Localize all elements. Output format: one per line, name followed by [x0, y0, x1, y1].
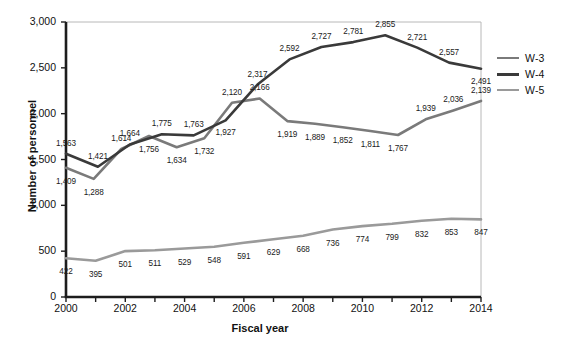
legend-swatch-w-5 — [497, 89, 519, 91]
data-point-label: 853 — [445, 227, 458, 236]
x-tick-label: 2012 — [402, 302, 442, 314]
data-point-label: 1,421 — [88, 151, 108, 160]
data-point-label: 2,491 — [471, 76, 491, 85]
data-point-label: 2,592 — [279, 44, 299, 53]
data-point-label: 668 — [296, 244, 309, 253]
data-point-label: 1,939 — [416, 104, 436, 113]
data-point-label: 1,852 — [333, 136, 353, 145]
data-point-label: 2,036 — [443, 95, 463, 104]
data-point-label: 529 — [178, 257, 191, 266]
legend-item-w-5[interactable]: W-5 — [497, 84, 545, 96]
legend-item-w-4[interactable]: W-4 — [497, 68, 545, 80]
data-point-label: 1,775 — [152, 119, 172, 128]
series-line-w-4 — [66, 35, 481, 166]
data-point-label: 395 — [89, 269, 102, 278]
data-point-label: 1,767 — [388, 144, 408, 153]
data-point-label: 832 — [415, 229, 428, 238]
data-point-label: 2,855 — [375, 20, 395, 29]
x-tick-label: 2006 — [224, 302, 264, 314]
data-point-label: 1,756 — [139, 145, 159, 154]
data-point-label: 1,664 — [120, 129, 140, 138]
data-point-label: 1,763 — [184, 120, 204, 129]
data-point-label: 1,563 — [56, 138, 76, 147]
data-point-label: 2,317 — [248, 69, 268, 78]
data-point-label: 1,634 — [167, 156, 187, 165]
data-point-label: 501 — [119, 260, 132, 269]
data-point-label: 2,166 — [250, 83, 270, 92]
data-point-label: 548 — [208, 255, 221, 264]
legend-label: W-3 — [525, 52, 545, 64]
data-point-label: 1,889 — [305, 132, 325, 141]
x-tick-label: 2010 — [342, 302, 382, 314]
data-point-label: 2,721 — [407, 32, 427, 41]
data-point-label: 799 — [385, 232, 398, 241]
line-chart: Number of personnel 05001,0001,5002,0002… — [0, 0, 570, 344]
legend-label: W-5 — [525, 84, 545, 96]
data-point-label: 1,732 — [194, 147, 214, 156]
chart-legend: W-3W-4W-5 — [497, 52, 545, 96]
data-point-label: 774 — [356, 235, 369, 244]
data-point-label: 2,120 — [222, 87, 242, 96]
data-point-label: 629 — [267, 248, 280, 257]
x-tick-label: 2000 — [46, 302, 86, 314]
x-tick-label: 2004 — [165, 302, 205, 314]
data-point-label: 2,727 — [311, 32, 331, 41]
data-point-label: 1,927 — [216, 128, 236, 137]
legend-label: W-4 — [525, 68, 545, 80]
legend-item-w-3[interactable]: W-3 — [497, 52, 545, 64]
data-point-label: 1,409 — [56, 176, 76, 185]
x-tick-label: 2014 — [461, 302, 501, 314]
data-point-label: 2,781 — [343, 27, 363, 36]
data-point-label: 591 — [237, 251, 250, 260]
data-point-label: 422 — [59, 267, 72, 276]
x-tick-label: 2002 — [105, 302, 145, 314]
data-point-label: 511 — [149, 259, 162, 268]
data-point-label: 2,557 — [439, 47, 459, 56]
x-axis-title: Fiscal year — [60, 322, 460, 334]
data-point-label: 736 — [326, 238, 339, 247]
data-point-label: 1,288 — [84, 187, 104, 196]
data-point-label: 1,811 — [361, 139, 380, 148]
data-point-label: 847 — [474, 228, 487, 237]
legend-swatch-w-4 — [497, 73, 519, 76]
data-point-label: 2,139 — [471, 85, 491, 94]
legend-swatch-w-3 — [497, 57, 519, 59]
x-tick-label: 2008 — [283, 302, 323, 314]
data-point-label: 1,919 — [277, 130, 297, 139]
